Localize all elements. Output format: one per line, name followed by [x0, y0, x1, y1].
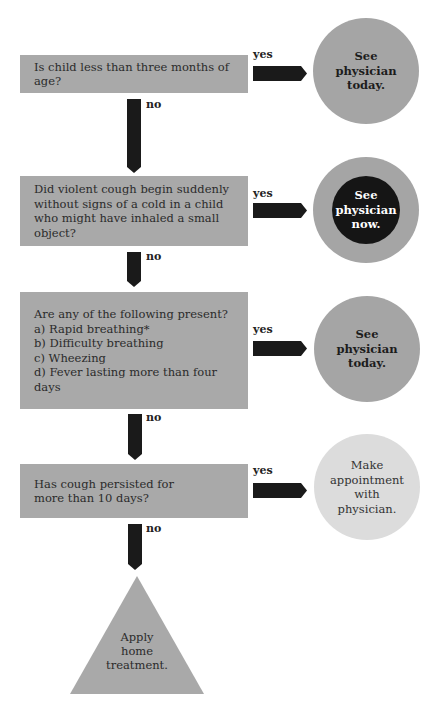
outcome-see-physician-today: See physician today. [313, 18, 419, 124]
right-arrow-icon [253, 203, 307, 218]
yes-label: yes [253, 187, 273, 200]
yes-label: yes [253, 464, 273, 477]
outcome-line: treatment. [90, 658, 184, 672]
question-text: Is child less than three months of age? [34, 60, 234, 89]
yes-label: yes [253, 323, 273, 336]
outcome-line: with [330, 487, 404, 502]
decision-box-symptoms: Are any of the following present? a) Rap… [20, 292, 248, 409]
outcome-line: See [336, 327, 397, 342]
question-text: Did violent cough begin suddenly without… [34, 182, 234, 240]
outcome-make-appointment: Make appointment with physician. [314, 434, 420, 540]
no-label: no [146, 522, 161, 535]
symptom-item: c) Wheezing [34, 351, 234, 366]
outcome-line: now. [335, 217, 396, 232]
home-treatment-text: Apply home treatment. [90, 630, 184, 672]
outcome-line: appointment [330, 473, 404, 488]
outcome-line: home [90, 644, 184, 658]
decision-box-inhaled-object: Did violent cough begin suddenly without… [20, 176, 248, 246]
no-label: no [146, 411, 161, 424]
outcome-see-physician-today: See physician today. [314, 296, 420, 402]
decision-box-age: Is child less than three months of age? [20, 55, 248, 93]
no-label: no [146, 250, 161, 263]
urgent-core: See physician now. [332, 176, 400, 244]
question-text: Has cough persisted for more than 10 day… [34, 477, 234, 506]
outcome-line: today. [335, 78, 396, 93]
down-arrow-icon [128, 414, 142, 460]
outcome-line: Make [330, 458, 404, 473]
right-arrow-icon [253, 341, 307, 356]
outcome-line: physician [335, 203, 396, 218]
down-arrow-icon [127, 252, 141, 287]
decision-box-duration: Has cough persisted for more than 10 day… [20, 464, 248, 518]
outcome-line: physician [335, 64, 396, 79]
outcome-line: See [335, 188, 396, 203]
down-arrow-icon [127, 99, 141, 173]
no-label: no [146, 98, 161, 111]
question-text: Are any of the following present? [34, 307, 234, 322]
outcome-line: See [335, 49, 396, 64]
yes-label: yes [253, 48, 273, 61]
symptom-item: b) Difficulty breathing [34, 336, 234, 351]
symptom-item: d) Fever lasting more than four days [34, 365, 234, 394]
down-arrow-icon [128, 524, 142, 570]
outcome-line: today. [336, 356, 397, 371]
right-arrow-icon [253, 483, 307, 498]
outcome-see-physician-now: See physician now. [313, 157, 419, 263]
outcome-line: Apply [90, 630, 184, 644]
outcome-line: physician [336, 342, 397, 357]
right-arrow-icon [253, 66, 307, 81]
outcome-line: physician. [330, 502, 404, 517]
symptom-item: a) Rapid breathing* [34, 322, 234, 337]
